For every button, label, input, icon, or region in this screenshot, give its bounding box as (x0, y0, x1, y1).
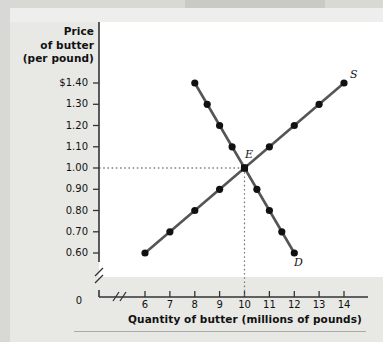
x-tick-label-7: 7 (158, 299, 182, 310)
x-tick-label-8: 8 (183, 299, 207, 310)
x-tick-label-11: 11 (257, 299, 281, 310)
x-tick-label-6: 6 (133, 299, 157, 310)
y-tick-label-0-70: 0.70 (36, 226, 88, 237)
equilibrium-label: E (245, 148, 253, 161)
y-tick-label-1-30: 1.30 (36, 98, 88, 109)
y-axis-ticks (93, 83, 99, 253)
demand-curve-label: D (294, 256, 303, 269)
y-tick-label-0-80: 0.80 (36, 205, 88, 216)
y-axis-title-line-3: (per pound) (14, 52, 94, 66)
x-tick-label-14: 14 (332, 299, 356, 310)
y-axis-title: Price of butter (per pound) (14, 25, 94, 66)
equilibrium-point (241, 165, 248, 172)
supply-curve-label: S (350, 68, 358, 81)
y-tick-label-1-10: 1.10 (36, 141, 88, 152)
y-tick-label-1-40: $1.40 (36, 77, 88, 88)
y-tick-label-0-60: 0.60 (36, 247, 88, 258)
y-axis-title-line-1: Price (14, 25, 94, 39)
figure-page: Price of butter (per pound) $1.40 1.30 1… (0, 0, 383, 342)
x-tick-label-9: 9 (208, 299, 232, 310)
origin-label: 0 (58, 295, 82, 306)
y-tick-label-1-00: 1.00 (36, 162, 88, 173)
x-tick-label-13: 13 (307, 299, 331, 310)
y-tick-label-1-20: 1.20 (36, 120, 88, 131)
y-axis-break-icon (95, 268, 103, 283)
chart-axes (99, 22, 368, 297)
x-tick-label-10: 10 (233, 299, 257, 310)
x-tick-label-12: 12 (282, 299, 306, 310)
bottom-rule (74, 331, 366, 332)
y-tick-label-0-90: 0.90 (36, 183, 88, 194)
x-axis-title: Quantity of butter (millions of pounds) (120, 313, 370, 325)
y-axis-title-line-2: of butter (14, 39, 94, 53)
